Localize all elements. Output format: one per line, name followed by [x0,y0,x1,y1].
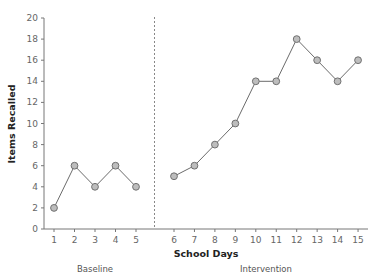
x-tick-label: 6 [171,235,177,245]
x-tick-label: 12 [291,235,302,245]
x-axis-title: School Days [174,248,239,259]
y-tick-label: 18 [27,34,39,44]
x-tick-label: 13 [311,235,322,245]
data-point [293,36,300,43]
data-point [355,57,362,64]
x-tick-label: 3 [92,235,98,245]
y-tick-label: 2 [32,203,38,213]
data-point [334,78,341,85]
data-point [212,141,219,148]
x-tick-label: 14 [332,235,344,245]
y-tick-label: 16 [27,55,39,65]
baseline-phase-label: Baseline [77,264,113,274]
x-tick-label: 5 [133,235,139,245]
x-tick-label: 15 [352,235,363,245]
x-tick-label: 2 [72,235,78,245]
y-tick-label: 8 [32,140,38,150]
y-tick-label: 4 [32,182,38,192]
data-point [191,162,198,169]
data-point [273,78,280,85]
data-point [314,57,321,64]
x-tick-label: 10 [250,235,262,245]
y-axis-title: Items Recalled [6,85,17,164]
line-chart: 02468101214161820 123456789101112131415 … [0,0,378,279]
data-point [133,183,140,190]
x-tick-label: 11 [271,235,282,245]
y-tick-label: 0 [32,224,38,234]
intervention-phase-label: Intervention [240,264,292,274]
series-intervention [171,36,362,180]
data-series [51,36,362,212]
y-tick-label: 10 [27,119,39,129]
y-tick-label: 20 [27,13,39,23]
x-axis: 123456789101112131415 [44,229,368,245]
x-tick-label: 7 [192,235,198,245]
data-point [51,205,58,212]
series-baseline [51,162,140,211]
y-tick-label: 12 [27,97,38,107]
x-tick-label: 8 [212,235,218,245]
data-point [112,162,119,169]
y-tick-label: 6 [32,161,38,171]
x-tick-label: 4 [113,235,119,245]
data-point [71,162,78,169]
x-tick-label: 9 [232,235,238,245]
data-point [171,173,178,180]
x-tick-label: 1 [51,235,57,245]
data-point [232,120,239,127]
y-axis: 02468101214161820 [27,13,44,234]
data-point [252,78,259,85]
y-tick-label: 14 [27,76,39,86]
data-point [92,183,99,190]
